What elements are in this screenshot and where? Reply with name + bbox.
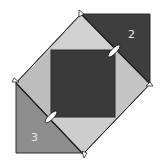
diagram-svg: 2 3: [0, 0, 162, 163]
quilt-block-diagram: 2 3: [0, 0, 162, 163]
notch-tab-bottom: [82, 151, 87, 158]
notch-tab-left: [12, 78, 19, 82]
label-triangle-2: 2: [128, 28, 135, 41]
label-triangle-3: 3: [31, 131, 38, 144]
center-square: [51, 50, 115, 117]
